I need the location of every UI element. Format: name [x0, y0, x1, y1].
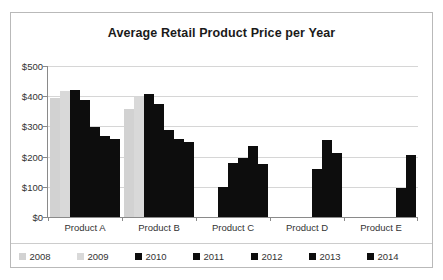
bar [248, 146, 258, 217]
bar [312, 169, 322, 217]
y-axis-ticks: $0$100$200$300$400$500 [0, 66, 43, 217]
y-tick-mark [43, 157, 47, 158]
x-tick-mark [344, 217, 345, 221]
bar [238, 158, 248, 217]
y-tick-mark [43, 126, 47, 127]
legend-divider [11, 243, 432, 244]
bar [228, 163, 238, 217]
bar [90, 127, 100, 217]
bar [50, 98, 60, 217]
legend-label: 2012 [262, 251, 283, 262]
bar [322, 140, 332, 217]
bar [60, 91, 70, 217]
bar-group [196, 66, 270, 217]
legend-item[interactable]: 2013 [309, 251, 367, 262]
chart-legend: 2008200920102011201220132014 [11, 248, 432, 264]
legend-swatch-icon [309, 253, 316, 260]
legend-label: 2013 [320, 251, 341, 262]
bar [184, 142, 194, 217]
bar [80, 100, 90, 217]
legend-item[interactable]: 2012 [251, 251, 309, 262]
x-tick-mark [417, 217, 418, 221]
legend-swatch-icon [77, 253, 84, 260]
y-tick-label: $200 [1, 151, 43, 162]
legend-label: 2009 [88, 251, 109, 262]
y-tick-label: $0 [1, 212, 43, 223]
bar [406, 155, 416, 217]
legend-swatch-icon [135, 253, 142, 260]
bar-group [344, 66, 418, 217]
legend-swatch-icon [19, 253, 26, 260]
bar [258, 164, 268, 217]
bar [154, 104, 164, 217]
x-tick-label: Product A [48, 222, 122, 233]
x-tick-mark [196, 217, 197, 221]
bar [218, 187, 228, 217]
bar-group [122, 66, 196, 217]
bar [396, 188, 406, 217]
x-tick-label: Product D [270, 222, 344, 233]
x-tick-label: Product C [196, 222, 270, 233]
bar [164, 130, 174, 217]
x-tick-label: Product B [122, 222, 196, 233]
legend-item[interactable]: 2011 [193, 251, 251, 262]
legend-swatch-icon [367, 253, 374, 260]
x-tick-label: Product E [344, 222, 418, 233]
plot-area [48, 66, 418, 217]
legend-label: 2010 [146, 251, 167, 262]
legend-item[interactable]: 2010 [135, 251, 193, 262]
legend-label: 2008 [30, 251, 51, 262]
legend-label: 2014 [378, 251, 399, 262]
x-tick-mark [48, 217, 49, 221]
x-axis-labels: Product AProduct BProduct CProduct DProd… [48, 222, 418, 238]
chart-title: Average Retail Product Price per Year [0, 26, 443, 40]
y-tick-mark [43, 66, 47, 67]
bar [110, 139, 120, 217]
legend-swatch-icon [193, 253, 200, 260]
y-tick-label: $300 [1, 121, 43, 132]
y-tick-label: $100 [1, 181, 43, 192]
bar [70, 90, 80, 217]
bar [332, 153, 342, 217]
y-tick-mark [43, 96, 47, 97]
bar [144, 94, 154, 217]
bar-group [48, 66, 122, 217]
x-tick-mark [270, 217, 271, 221]
bar [134, 97, 144, 217]
legend-item[interactable]: 2008 [19, 251, 77, 262]
bar [100, 136, 110, 217]
legend-swatch-icon [251, 253, 258, 260]
bar-group [270, 66, 344, 217]
bar [124, 109, 134, 217]
y-tick-mark [43, 187, 47, 188]
x-tick-mark [122, 217, 123, 221]
y-tick-mark [43, 217, 47, 218]
legend-label: 2011 [204, 251, 224, 262]
legend-item[interactable]: 2009 [77, 251, 135, 262]
y-tick-label: $400 [1, 91, 43, 102]
bar [174, 139, 184, 217]
y-tick-label: $500 [1, 61, 43, 72]
chart-container: Average Retail Product Price per Year $0… [0, 0, 443, 280]
legend-item[interactable]: 2014 [367, 251, 425, 262]
